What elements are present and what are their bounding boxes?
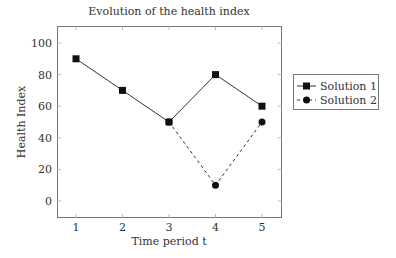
line-chart: Evolution of the health index 0204060801… xyxy=(0,0,396,258)
series-1 xyxy=(73,55,266,125)
x-axis-label: Time period t xyxy=(131,235,207,248)
legend-label: Solution 2 xyxy=(320,94,377,107)
x-tick-label: 1 xyxy=(73,221,80,234)
legend: Solution 1Solution 2 xyxy=(294,75,379,110)
x-tick-label: 5 xyxy=(259,221,266,234)
series-layer xyxy=(73,55,266,188)
series-2 xyxy=(166,119,266,189)
x-tick-label: 4 xyxy=(212,221,219,234)
y-tick-label: 60 xyxy=(38,100,52,113)
y-tick-label: 20 xyxy=(38,163,52,176)
x-tick-label: 3 xyxy=(166,221,173,234)
chart-title: Evolution of the health index xyxy=(88,5,250,18)
y-tick-label: 80 xyxy=(38,69,52,82)
legend-label: Solution 1 xyxy=(320,80,377,93)
y-axis-ticks: 020406080100 xyxy=(31,37,282,208)
y-tick-label: 100 xyxy=(31,37,52,50)
y-axis-label: Health Index xyxy=(15,85,28,158)
x-axis-ticks: 12345 xyxy=(73,27,266,235)
y-tick-label: 0 xyxy=(45,195,52,208)
x-tick-label: 2 xyxy=(119,221,126,234)
y-tick-label: 40 xyxy=(38,132,52,145)
